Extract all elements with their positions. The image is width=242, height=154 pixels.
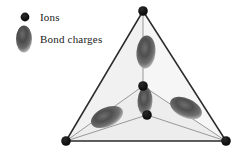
legend-bond-charge-marker [16, 26, 32, 53]
ion-center [142, 110, 152, 120]
ion-bottom-right [221, 136, 231, 146]
tetrahedral-bond-charge-figure: Ions Bond charges [0, 0, 242, 154]
legend-ion-marker [21, 13, 30, 22]
ion-bottom-left [61, 136, 71, 146]
ion-back-interior [138, 81, 148, 91]
ion-apex [138, 6, 148, 16]
tetrahedron-faces [66, 11, 226, 141]
structure-svg [0, 0, 242, 154]
legend-label-ions: Ions [40, 12, 60, 23]
legend-label-bond-charges: Bond charges [40, 34, 102, 45]
